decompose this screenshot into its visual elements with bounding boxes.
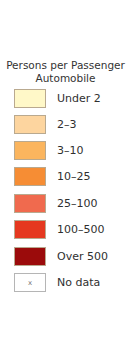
legend-label: 100–500: [57, 222, 105, 237]
legend-label: 10–25: [57, 169, 91, 184]
legend-item-over-500: Over 500: [14, 247, 131, 267]
x-mark-icon: x: [28, 279, 32, 287]
color-swatch: [14, 194, 46, 213]
legend-label: Over 500: [57, 249, 108, 264]
no-data-swatch: x: [14, 273, 46, 292]
legend-title: Persons per Passenger Automobile: [0, 59, 131, 85]
legend-label: 2–3: [57, 117, 77, 132]
color-swatch: [14, 141, 46, 160]
color-swatch: [14, 89, 46, 108]
color-swatch: [14, 167, 46, 186]
legend-title-line-1: Persons per Passenger: [0, 59, 131, 72]
legend-label: No data: [57, 275, 100, 290]
legend-label: 25–100: [57, 196, 98, 211]
legend-item-under-2: Under 2: [14, 89, 131, 109]
legend-item-3-10: 3–10: [14, 141, 131, 161]
legend-title-line-2: Automobile: [0, 72, 131, 85]
legend-item-no-data: x No data: [14, 273, 131, 293]
legend-label: 3–10: [57, 143, 84, 158]
legend-item-2-3: 2–3: [14, 115, 131, 135]
legend-item-10-25: 10–25: [14, 167, 131, 187]
color-swatch: [14, 220, 46, 239]
color-swatch: [14, 115, 46, 134]
color-swatch: [14, 247, 46, 266]
legend-item-100-500: 100–500: [14, 220, 131, 240]
legend-label: Under 2: [57, 91, 101, 106]
legend-item-25-100: 25–100: [14, 194, 131, 214]
